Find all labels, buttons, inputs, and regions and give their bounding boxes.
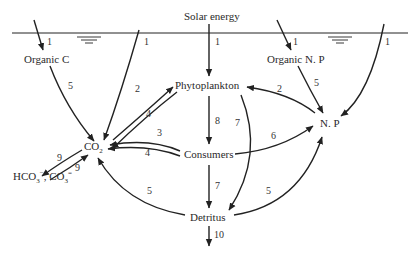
edge-label-5-detritus-co2: 5 <box>147 186 152 196</box>
co2-text: CO <box>84 140 99 152</box>
node-detritus: Detritus <box>190 212 225 223</box>
edge-label-4-phyto-co2: 4 <box>146 109 151 119</box>
arrow-organic-np-np <box>298 66 323 113</box>
edge-label-9-co2-carbonate: 9 <box>57 153 62 163</box>
water-level-icon-right <box>328 37 352 43</box>
arrow-consumers-co2-4 <box>108 148 180 156</box>
node-phytoplankton: Phytoplankton <box>175 80 239 91</box>
co3-text: , CO <box>44 170 65 182</box>
edge-label-1-organic-np: 1 <box>293 37 298 47</box>
water-level-icon-left <box>77 37 101 43</box>
edge-label-4-consumers-co2: 4 <box>145 148 150 158</box>
co3-superscript: = <box>68 169 72 177</box>
edge-label-8-phyto-consumers: 8 <box>215 116 220 126</box>
arrow-atm-organic-c <box>34 20 43 50</box>
arrow-atm-np <box>341 24 384 116</box>
node-solar-energy: Solar energy <box>184 11 240 22</box>
hco3-subscript: 3 <box>36 177 40 185</box>
arrow-phyto-co2 <box>112 92 177 149</box>
hco3-text: HCO <box>13 170 36 182</box>
node-consumers: Consumers <box>184 149 234 160</box>
node-co2: CO2 <box>84 141 103 155</box>
arrow-detritus-np <box>234 137 322 215</box>
edge-label-10-detritus-out: 10 <box>214 230 224 240</box>
edge-label-7-consumers-detritus: 7 <box>215 181 220 191</box>
edge-label-5-organic-c: 5 <box>68 81 73 91</box>
edge-label-1-np: 1 <box>385 37 390 47</box>
co2-subscript: 2 <box>99 147 103 155</box>
arrow-co2-phyto <box>113 87 173 140</box>
edge-label-9-carbonate-co2: 9 <box>75 163 80 173</box>
node-carbonate: HCO3−, CO3= <box>13 170 72 185</box>
node-organic-c: Organic C <box>24 54 69 65</box>
edge-label-5-organic-np: 5 <box>314 78 319 88</box>
arrow-atm-co2 <box>104 30 139 140</box>
co3-subscript: 3 <box>64 177 68 185</box>
edge-label-2-np-phyto: 2 <box>277 84 282 94</box>
edge-label-7-phyto-detritus: 7 <box>235 118 240 128</box>
edge-label-2-co2-phyto: 2 <box>135 84 140 94</box>
edge-label-5-detritus-np: 5 <box>266 186 271 196</box>
edge-label-1-co2: 1 <box>144 37 149 47</box>
node-organic-np: Organic N. P <box>267 54 325 65</box>
arrow-organic-c-co2 <box>50 66 94 141</box>
arrow-atm-organic-np <box>277 20 291 50</box>
edge-label-3-consumers-co2: 3 <box>157 128 162 138</box>
edge-label-6-consumers-np: 6 <box>271 131 276 141</box>
arrow-detritus-co2 <box>98 158 185 215</box>
edge-label-1-organic-c: 1 <box>47 37 52 47</box>
node-np: N. P <box>320 118 340 129</box>
edge-label-1-solar: 1 <box>215 37 220 47</box>
